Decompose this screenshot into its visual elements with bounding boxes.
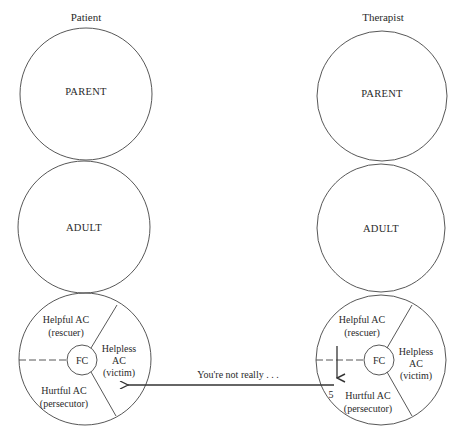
patient-helpless-line2: AC [112, 355, 126, 366]
therapist-hurtful-line2: (persecutor) [344, 403, 392, 415]
patient-parent-label: PARENT [65, 86, 107, 97]
ta-diagram: Patient PARENT ADULT FC Helpful AC (resc… [0, 0, 464, 440]
patient-upper-divider [91, 305, 117, 348]
patient-hurtful-line1: Hurtful AC [41, 385, 87, 396]
patient-hurtful-line2: (persecutor) [40, 398, 88, 410]
patient-column: Patient PARENT ADULT FC Helpful AC (resc… [18, 11, 152, 425]
therapist-column: Therapist PARENT ADULT FC Helpful AC (re… [316, 11, 447, 425]
patient-helpful-line2: (rescuer) [48, 327, 84, 339]
therapist-adult-label: ADULT [363, 223, 399, 234]
patient-child: FC Helpful AC (rescuer) Helpless AC (vic… [19, 293, 151, 425]
transaction-number: 5 [329, 389, 334, 400]
therapist-helpless-line3: (victim) [400, 370, 432, 382]
therapist-hurtful-line1: Hurtful AC [345, 390, 391, 401]
therapist-helpful-line1: Helpful AC [339, 314, 386, 325]
therapist-helpful-line2: (rescuer) [344, 327, 380, 339]
therapist-helpless-line2: AC [409, 358, 423, 369]
therapist-upper-divider [387, 305, 412, 348]
patient-adult-label: ADULT [66, 222, 102, 233]
patient-lower-divider [91, 372, 116, 416]
therapist-helpless-line1: Helpless [399, 346, 434, 357]
patient-helpful-line1: Helpful AC [43, 314, 90, 325]
therapist-fc-label: FC [373, 355, 386, 366]
therapist-parent-label: PARENT [361, 88, 403, 99]
patient-helpless-line1: Helpless [102, 343, 137, 354]
therapist-title: Therapist [362, 11, 404, 23]
transaction-message: You're not really . . . [197, 369, 278, 380]
transaction: You're not really . . . 5 [128, 369, 334, 400]
patient-fc-label: FC [76, 355, 89, 366]
therapist-child: FC Helpful AC (rescuer) Helpless AC (vic… [316, 295, 446, 425]
patient-title: Patient [71, 11, 102, 23]
patient-helpless-line3: (victim) [103, 367, 135, 379]
